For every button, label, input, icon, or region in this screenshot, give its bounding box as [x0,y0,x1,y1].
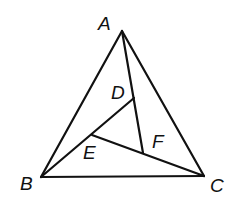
segment-EC [92,135,204,176]
geometry-diagram: A B C D E F [0,0,240,200]
label-A: A [97,13,111,34]
label-E: E [83,142,96,163]
segment-BD [41,98,134,177]
segments-group [41,31,204,177]
segment-BC [41,176,204,177]
label-C: C [210,175,224,196]
label-B: B [20,173,33,194]
segment-AB [41,31,122,177]
label-D: D [111,82,125,103]
label-F: F [152,131,165,152]
